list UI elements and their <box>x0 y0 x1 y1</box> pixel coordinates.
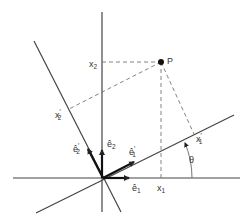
point-p-marker <box>158 59 164 65</box>
theta-label: θ <box>189 155 194 165</box>
x2-label: x2 <box>89 59 98 70</box>
x1-prime-label: x′1 <box>196 132 203 145</box>
x2-prime-label: x′2 <box>55 108 62 121</box>
rotated-axes-diagram: P x2 x1 x′2 x′1 ê1 ê2 ê′1 ê′2 θ <box>0 0 251 224</box>
e2-label: ê2 <box>107 139 116 150</box>
e1-label: ê1 <box>132 183 141 194</box>
e1-prime-vector <box>103 162 134 178</box>
point-p-label: P <box>167 56 173 66</box>
projection-lines <box>69 62 194 178</box>
e2-prime-label: ê′2 <box>73 142 80 155</box>
projection-to-x1-prime <box>161 62 194 134</box>
x1-label: x1 <box>157 183 166 194</box>
projection-to-x2-prime <box>69 62 161 109</box>
x1-prime-axis <box>36 115 234 213</box>
x2-prime-axis <box>34 41 121 212</box>
e2-prime-vector <box>88 149 103 178</box>
e1-prime-label: ê′1 <box>129 145 136 158</box>
